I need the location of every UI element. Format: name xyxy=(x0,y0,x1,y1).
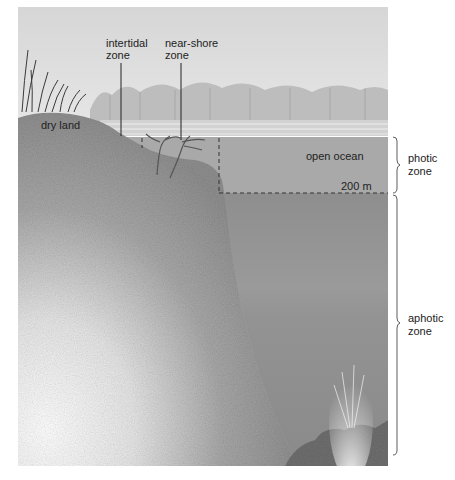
intertidal-zone-label: intertidal zone xyxy=(106,37,148,61)
aphotic-zone-label: aphotic zone xyxy=(408,312,443,338)
open-ocean-label: open ocean xyxy=(306,150,364,162)
aphotic-brace xyxy=(393,195,400,455)
hydrothermal-vent xyxy=(329,360,373,480)
dry-land-label: dry land xyxy=(41,119,80,131)
diagram-illustration xyxy=(0,0,455,480)
photic-zone-label: photic zone xyxy=(408,152,437,178)
ocean-zones-diagram: intertidal zone near-shore zone dry land… xyxy=(0,0,455,480)
depth-200m-label: 200 m xyxy=(341,180,372,192)
photic-brace xyxy=(393,137,400,193)
near-shore-zone-label: near-shore zone xyxy=(165,37,218,61)
